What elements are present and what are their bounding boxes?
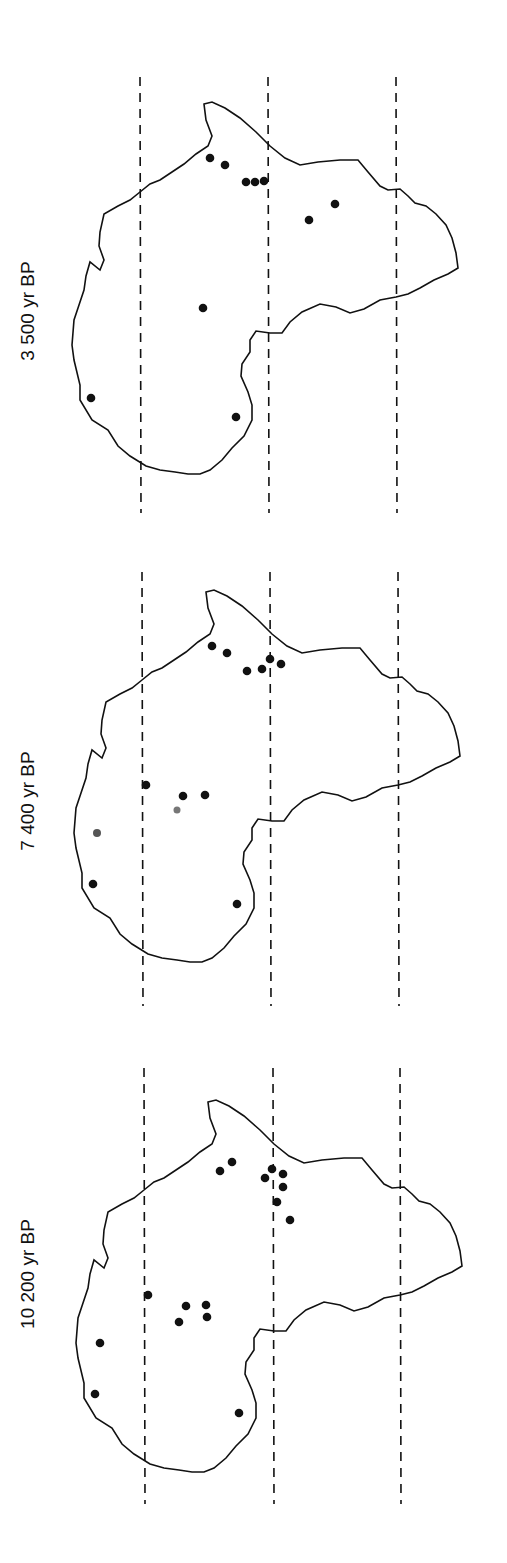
dashed-lines [142, 572, 399, 1006]
map-panel-7400: 7 400 yr BP [0, 520, 507, 1040]
dashed-line-2 [270, 572, 271, 1006]
region-outline [74, 590, 460, 962]
map-3500 [0, 0, 507, 520]
dashed-line-3 [396, 77, 397, 513]
map-panel-10200: 10 200 yr BP [0, 1040, 507, 1560]
panel-label: 7 400 yr BP [17, 751, 39, 851]
panel-label: 3 500 yr BP [17, 261, 39, 361]
map-panel-3500: 3 500 yr BP [0, 0, 507, 520]
dashed-line-1 [142, 572, 143, 1006]
dashed-lines [144, 1068, 401, 1504]
dashed-lines [140, 77, 397, 513]
dashed-line-1 [144, 1068, 145, 1504]
dashed-line-2 [273, 1068, 274, 1504]
region-outline [72, 102, 458, 474]
dashed-line-2 [268, 77, 269, 513]
dashed-line-1 [140, 77, 141, 513]
region-outline [76, 1100, 462, 1472]
dashed-line-3 [400, 1068, 401, 1504]
map-10200 [0, 1040, 507, 1563]
site-dots [87, 154, 340, 422]
site-dots [89, 642, 286, 909]
panel-label: 10 200 yr BP [17, 1214, 39, 1334]
map-7400 [0, 520, 507, 1040]
site-dots [91, 1158, 295, 1418]
dashed-line-3 [398, 572, 399, 1006]
